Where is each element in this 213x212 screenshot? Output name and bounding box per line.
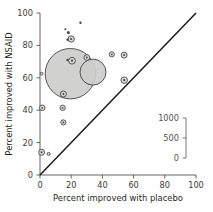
data-point-center: [66, 39, 68, 41]
data-point-center: [67, 31, 70, 34]
data-point-center: [63, 122, 65, 124]
x-tick-label-60: 60: [128, 180, 138, 190]
x-axis-title: Percent improved with placebo: [53, 193, 183, 203]
data-point-bubble: [40, 72, 43, 75]
data-point-center: [79, 22, 81, 24]
y-tick-label-0: 0: [28, 170, 33, 180]
data-point-center: [123, 79, 125, 81]
x-tick-label-100: 100: [188, 180, 204, 190]
y-axis-title: Percent improved with NSAID: [4, 32, 14, 155]
x-tick-label-40: 40: [97, 180, 107, 190]
chart-figure: 0 20 40 60 80 100 0 20 40 60 80 100 Perc…: [0, 0, 213, 212]
data-point-center: [86, 57, 88, 59]
y-tick-label-40: 40: [23, 105, 33, 115]
y-tick-label-20: 20: [23, 138, 33, 148]
data-point-center: [62, 107, 64, 109]
x-tick-label-20: 20: [66, 180, 76, 190]
data-point-center: [70, 38, 72, 40]
y-tick-label-60: 60: [23, 73, 33, 83]
x-tick-label-0: 0: [37, 180, 42, 190]
legend-label-0: 0: [174, 153, 179, 163]
data-points: [39, 22, 128, 156]
y-tick-label-100: 100: [17, 8, 33, 18]
data-point-center: [111, 53, 113, 55]
data-point-bubble: [80, 59, 106, 85]
data-point-center: [62, 93, 64, 95]
data-point-center: [66, 59, 69, 62]
data-point-center: [41, 151, 43, 153]
data-point-center: [41, 107, 43, 109]
data-point-bubble: [47, 152, 50, 155]
legend-label-1000: 1000: [158, 113, 179, 123]
y-axis-ticks: 0 20 40 60 80 100: [17, 8, 40, 180]
x-tick-label-80: 80: [160, 180, 170, 190]
data-point-center: [71, 60, 73, 62]
data-point-center: [64, 28, 66, 30]
scatter-plot: 0 20 40 60 80 100 0 20 40 60 80 100 Perc…: [0, 0, 213, 212]
bubble-size-legend: 1000 500 0: [158, 113, 186, 163]
y-tick-label-80: 80: [23, 40, 33, 50]
data-point-center: [123, 54, 125, 56]
x-axis-ticks: 0 20 40 60 80 100: [37, 175, 203, 190]
legend-label-500: 500: [163, 133, 179, 143]
